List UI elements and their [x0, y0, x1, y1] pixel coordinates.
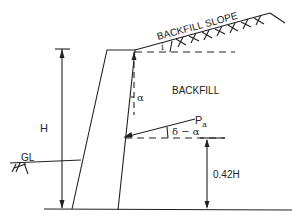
alpha-label: α	[137, 92, 144, 103]
ground-level-label: GL	[21, 152, 35, 163]
height-arrowhead-top	[60, 49, 65, 58]
height-label: H	[40, 122, 48, 134]
height-arrowhead-bottom	[60, 200, 65, 209]
active-force-subscript: a	[202, 120, 207, 129]
backfill-slope-end	[270, 13, 285, 23]
ground-hatching	[12, 163, 28, 174]
resultant-height-label: 0.42H	[213, 169, 240, 180]
base-line	[44, 209, 292, 210]
backfill-slope-label: BACKFILL SLOPE	[156, 10, 239, 42]
slope-angle-marker	[170, 41, 172, 52]
resultant-arrowhead-top	[205, 139, 210, 147]
delta-alpha-label: δ − α	[172, 126, 200, 137]
delta-alpha-marker	[167, 127, 168, 138]
alpha-arrowhead	[132, 52, 137, 60]
active-force-main: P	[195, 114, 202, 126]
wall-outline	[72, 50, 135, 210]
slope-angle-label: i	[161, 42, 164, 52]
backfill-label: BACKFILL	[172, 85, 220, 96]
resultant-arrowhead-bottom	[205, 201, 210, 209]
retaining-wall-diagram: BACKFILL SLOPE BACKFILL H α i Pa δ − α 0…	[0, 0, 292, 224]
